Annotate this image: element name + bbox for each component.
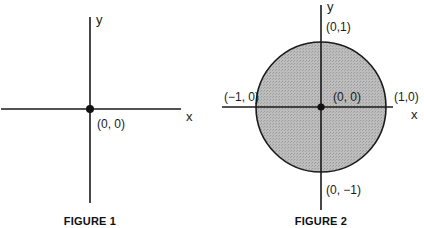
fig1-x-axis-label: x: [186, 111, 193, 123]
figure-1: [1, 17, 181, 203]
fig2-point-left-label: (−1, 0): [224, 91, 259, 103]
fig1-origin-point: [86, 105, 94, 113]
fig2-point-bottom-label: (0, −1): [326, 184, 361, 196]
fig2-y-axis-label: y: [327, 1, 334, 13]
fig2-origin-point: [317, 103, 324, 110]
figure-1-caption: FIGURE 1: [64, 215, 116, 227]
fig2-point-right-label: (1,0): [394, 91, 419, 103]
fig1-origin-label: (0, 0): [97, 118, 125, 130]
fig1-y-axis-label: y: [96, 14, 103, 26]
fig2-x-axis-label: x: [411, 109, 418, 121]
fig2-origin-label: (0, 0): [333, 91, 361, 103]
fig2-point-top-label: (0,1): [326, 21, 351, 33]
figure-2: [222, 5, 393, 210]
figure-2-caption: FIGURE 2: [295, 215, 347, 227]
